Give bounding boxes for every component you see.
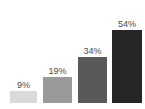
bar-rect-1[interactable]: [10, 91, 37, 103]
bar-value-label-3: 34%: [83, 46, 101, 56]
bar-rect-3[interactable]: [78, 57, 107, 103]
bar-value-label-2: 19%: [48, 66, 66, 76]
bar-group-2[interactable]: 19%: [43, 77, 72, 103]
bar-chart: 9% 19% 34% 54%: [0, 0, 145, 109]
bar-value-label-1: 9%: [17, 80, 30, 90]
plot-area: 9% 19% 34% 54%: [0, 0, 145, 109]
bar-group-4[interactable]: 54%: [112, 30, 142, 103]
bar-rect-2[interactable]: [43, 77, 72, 103]
bar-group-1[interactable]: 9%: [10, 91, 37, 103]
bar-value-label-4: 54%: [118, 19, 136, 29]
bar-rect-4[interactable]: [112, 30, 142, 103]
bar-group-3[interactable]: 34%: [78, 57, 107, 103]
